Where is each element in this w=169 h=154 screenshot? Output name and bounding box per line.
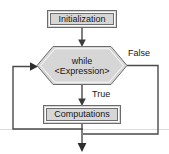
edge-true-arrowhead [78,99,86,107]
node-while-condition[interactable] [37,47,127,85]
node-computations-inner [47,109,118,121]
edge-exit-arrowhead [78,143,87,152]
flowchart-diagram: Initialization while <Expression> Comput… [0,0,169,154]
edge-init-to-while-arrowhead [78,40,86,48]
edge-loop-back-arrowhead [30,62,38,70]
edge-init-to-while [78,27,86,47]
edge-exit-arrow [78,128,87,152]
node-computations[interactable] [44,106,121,124]
node-initialization[interactable] [48,11,117,28]
flowchart-canvas [0,0,169,154]
node-while-inner-bevel [41,49,124,82]
node-initialization-inner [51,14,114,25]
edge-true-to-computations [78,85,86,106]
